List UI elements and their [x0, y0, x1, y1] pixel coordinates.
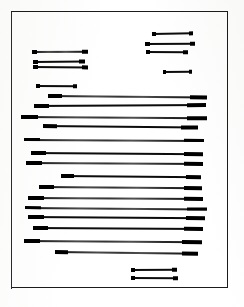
redacted-line	[146, 51, 188, 53]
redacted-line	[26, 162, 203, 165]
redacted-line	[34, 104, 206, 107]
redacted-line	[131, 269, 177, 271]
redacted-line	[28, 197, 203, 200]
redacted-line	[24, 240, 202, 243]
document-page	[0, 0, 244, 307]
redacted-line	[145, 43, 195, 45]
redacted-line	[28, 216, 205, 219]
redacted-line	[43, 125, 198, 129]
redacted-line	[48, 95, 207, 98]
redacted-line	[25, 207, 207, 210]
redacted-line	[31, 152, 203, 155]
redacted-line	[36, 85, 77, 87]
redacted-line	[24, 139, 204, 142]
redacted-line	[32, 51, 88, 53]
redacted-line	[39, 186, 202, 189]
redacted-line	[21, 116, 207, 119]
redacted-line	[33, 227, 203, 230]
redacted-line	[152, 32, 193, 35]
redacted-line	[61, 175, 201, 178]
redacted-line	[33, 61, 85, 64]
redacted-line	[163, 71, 192, 74]
redacted-text-layer	[0, 0, 244, 307]
redacted-line	[55, 251, 198, 255]
redacted-line	[33, 66, 88, 69]
redacted-line	[131, 277, 178, 280]
